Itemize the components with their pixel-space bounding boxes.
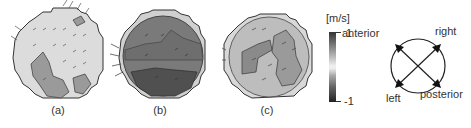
colorbar-min-label: -1 (344, 95, 354, 107)
velocity-map-a (3, 0, 113, 104)
panel-a: (a) (3, 0, 113, 128)
orientation-diagram: anterior right left posterior (360, 0, 471, 128)
panel-label-a: (a) (3, 104, 113, 116)
panel-b: (b) (105, 0, 215, 128)
orientation-compass-icon (360, 0, 471, 128)
label-posterior: posterior (420, 88, 463, 100)
label-anterior: anterior (342, 27, 379, 39)
panel-label-b: (b) (105, 104, 215, 116)
colorbar-unit: [m/s] (326, 12, 350, 24)
velocity-map-b (105, 0, 215, 104)
panel-c: (c) (212, 0, 322, 128)
velocity-map-c (212, 0, 322, 104)
label-left: left (386, 92, 401, 104)
colorbar-tick-max (336, 32, 341, 33)
panel-label-c: (c) (212, 104, 322, 116)
colorbar-gradient (329, 32, 336, 102)
label-right: right (435, 25, 456, 37)
colorbar-tick-min (336, 101, 341, 102)
